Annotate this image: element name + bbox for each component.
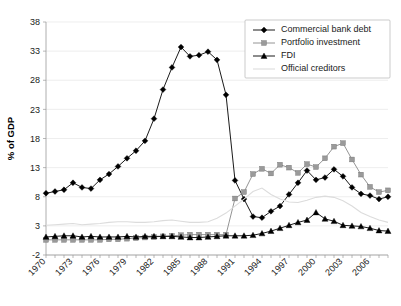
data-point-marker (233, 196, 238, 201)
y-axis-tick-label: 13 (30, 163, 40, 173)
data-point-marker (223, 92, 229, 98)
x-axis-tick-labels: 1970197319761979198219851988199119941997… (26, 256, 371, 277)
data-point-marker (332, 144, 337, 149)
data-point-marker (323, 156, 328, 161)
data-point-marker (151, 116, 157, 122)
x-axis-tick-label: 1988 (188, 256, 209, 277)
x-axis-tick-label: 2003 (323, 256, 344, 277)
x-axis-tick-label: 1976 (80, 256, 101, 277)
series-line (46, 143, 388, 240)
data-point-marker (232, 178, 238, 184)
data-point-marker (385, 194, 391, 200)
x-axis-tick-label: 2000 (296, 256, 317, 277)
legend-item-label: Commercial bank debt (281, 24, 372, 34)
data-point-marker (368, 184, 373, 189)
data-point-marker (377, 190, 382, 195)
y-axis-tick-label: 33 (30, 46, 40, 56)
data-point-marker (278, 162, 283, 167)
data-point-marker (322, 216, 328, 221)
y-axis-tick-label: 18 (30, 134, 40, 144)
y-axis-tick-label: 23 (30, 105, 40, 115)
data-point-marker (314, 165, 319, 170)
data-point-marker (287, 165, 292, 170)
data-point-marker (160, 87, 166, 93)
data-point-marker (367, 193, 373, 199)
legend-item-label: Official creditors (281, 63, 346, 73)
x-axis-tick-label: 2006 (350, 256, 371, 277)
data-point-marker (169, 65, 175, 71)
y-axis-tick-label: 38 (30, 17, 40, 27)
x-axis-tick-label: 1982 (134, 256, 155, 277)
y-axis-tick-label: 3 (35, 221, 40, 231)
data-point-marker (250, 214, 256, 220)
x-axis-tick-label: 1997 (269, 256, 290, 277)
data-point-marker (386, 188, 391, 193)
x-axis-tick-label: 1991 (215, 256, 236, 277)
data-point-marker (269, 171, 274, 176)
x-axis-tick-label: 1973 (53, 256, 74, 277)
data-point-marker (358, 191, 364, 197)
data-point-marker (350, 157, 355, 162)
data-point-marker (196, 52, 202, 58)
y-axis-tick-label: 8 (35, 192, 40, 202)
line-chart: -238131823283338 19701973197619791982198… (0, 0, 401, 306)
x-axis-tick-label: 1979 (107, 256, 128, 277)
data-point-marker (43, 190, 49, 196)
data-point-marker (242, 190, 247, 195)
data-point-marker (359, 172, 364, 177)
data-point-marker (268, 208, 274, 214)
series-line (46, 188, 388, 225)
legend-item-label: FDI (281, 50, 296, 60)
data-point-marker (341, 141, 346, 146)
x-axis-tick-label: 1985 (161, 256, 182, 277)
data-point-marker (79, 185, 85, 191)
data-point-marker (260, 166, 265, 171)
y-axis-title: % of GDP (5, 116, 16, 160)
data-point-marker (313, 209, 319, 214)
series-portfolio-investment (44, 141, 391, 242)
data-point-marker (52, 189, 58, 195)
chart-legend: Commercial bank debtPortfolio investment… (245, 20, 390, 78)
x-axis-tick-label: 1970 (26, 256, 47, 277)
y-axis-tick-labels: -238131823283338 (30, 17, 40, 260)
data-point-marker (296, 170, 301, 175)
series-official-creditors (46, 188, 388, 225)
y-axis-tick-label: 28 (30, 75, 40, 85)
data-point-marker (251, 172, 256, 177)
series-fdi (43, 209, 391, 239)
data-point-marker (262, 41, 267, 46)
data-point-marker (259, 215, 265, 221)
legend-item-label: Portfolio investment (281, 37, 361, 47)
chart-container: -238131823283338 19701973197619791982198… (0, 0, 401, 306)
data-point-marker (305, 162, 310, 167)
x-axis-tick-label: 1994 (242, 256, 263, 277)
